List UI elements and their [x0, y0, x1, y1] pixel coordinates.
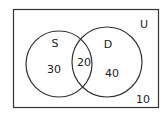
- venn-diagram: U S D 30 20 40 10: [0, 0, 164, 114]
- s-only-count: 30: [47, 63, 61, 76]
- outside-count: 10: [136, 93, 150, 106]
- intersection-count: 20: [77, 56, 91, 69]
- universe-label: U: [140, 18, 148, 31]
- d-only-count: 40: [105, 67, 119, 80]
- set-d-label: D: [104, 38, 112, 51]
- set-s-label: S: [52, 37, 59, 50]
